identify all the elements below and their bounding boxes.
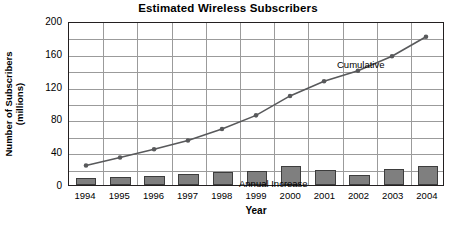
x-axis-tick-label: 2003 <box>382 190 403 201</box>
data-point-marker <box>424 34 429 39</box>
cumulative-markers <box>84 34 429 167</box>
data-point-marker <box>186 138 191 143</box>
series-label-annual-increase: Annual Increase <box>239 178 308 189</box>
x-axis-tick-label: 1996 <box>143 190 164 201</box>
data-point-marker <box>118 155 123 160</box>
x-axis-tick-label: 1997 <box>177 190 198 201</box>
line-series-cumulative <box>69 23 443 185</box>
data-point-marker <box>390 54 395 59</box>
x-axis-tick-label: 2001 <box>314 190 335 201</box>
y-axis-tick-label: 160 <box>26 50 62 60</box>
cumulative-line <box>86 37 426 166</box>
x-axis-tick-label: 1998 <box>211 190 232 201</box>
x-axis-tick-label: 2002 <box>348 190 369 201</box>
y-axis-tick-label: 200 <box>26 17 62 27</box>
data-point-marker <box>288 94 293 99</box>
x-axis-tick-label: 2004 <box>416 190 437 201</box>
data-point-marker <box>152 147 157 152</box>
data-point-marker <box>322 79 327 84</box>
x-axis-tick-label: 1994 <box>75 190 96 201</box>
data-point-marker <box>254 113 259 118</box>
plot-area: Cumulative Annual Increase <box>68 22 444 186</box>
x-axis-tick-labels: 1994199519961997199819992000200120022003… <box>68 190 444 204</box>
x-axis-tick-label: 2000 <box>280 190 301 201</box>
data-point-marker <box>220 127 225 132</box>
chart-title: Estimated Wireless Subscribers <box>0 2 456 14</box>
y-axis-tick-label: 120 <box>26 83 62 93</box>
series-label-cumulative: Cumulative <box>337 59 385 70</box>
chart-figure: Estimated Wireless Subscribers Number of… <box>0 0 456 225</box>
x-axis-tick-label: 1999 <box>245 190 266 201</box>
x-axis-title: Year <box>68 205 444 216</box>
y-axis-tick-label: 0 <box>26 181 62 191</box>
x-axis-tick-label: 1995 <box>109 190 130 201</box>
data-point-marker <box>84 163 89 168</box>
y-axis-tick-label: 40 <box>26 148 62 158</box>
y-axis-tick-label: 80 <box>26 115 62 125</box>
